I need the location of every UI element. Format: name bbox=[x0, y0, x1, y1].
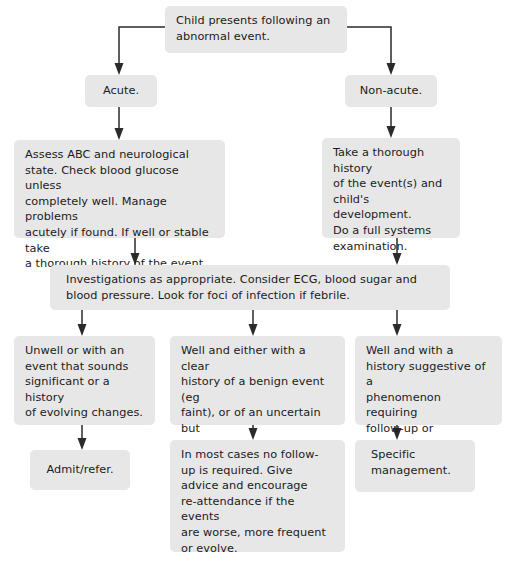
node-outcome-well-suggestive[interactable]: Well and with a history suggestive of a … bbox=[355, 336, 502, 425]
node-root-presentation[interactable]: Child presents following an abnormal eve… bbox=[165, 6, 347, 53]
node-investigations[interactable]: Investigations as appropriate. Consider … bbox=[50, 265, 450, 310]
flowchart-canvas: Child presents following an abnormal eve… bbox=[0, 0, 516, 565]
node-no-follow-up[interactable]: In most cases no follow- up is required.… bbox=[170, 440, 345, 552]
node-non-acute[interactable]: Non-acute. bbox=[345, 75, 437, 107]
node-acute[interactable]: Acute. bbox=[85, 75, 157, 107]
node-outcome-well-benign[interactable]: Well and either with a clear history of … bbox=[170, 336, 345, 425]
node-admit-refer[interactable]: Admit/refer. bbox=[30, 450, 130, 490]
node-acute-assessment[interactable]: Assess ABC and neurological state. Check… bbox=[14, 140, 225, 238]
node-outcome-unwell[interactable]: Unwell or with an event that sounds sign… bbox=[14, 336, 155, 425]
node-non-acute-history[interactable]: Take a thorough history of the event(s) … bbox=[322, 138, 460, 238]
node-specific-management[interactable]: Specific management. bbox=[355, 440, 475, 492]
